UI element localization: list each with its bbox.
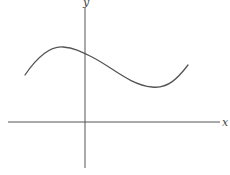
y-axis-label: y bbox=[82, 0, 90, 9]
function-curve bbox=[25, 47, 188, 87]
x-axis-label: x bbox=[222, 116, 229, 129]
graph-canvas: y x bbox=[0, 0, 230, 175]
function-graph-figure: y x bbox=[0, 0, 230, 175]
